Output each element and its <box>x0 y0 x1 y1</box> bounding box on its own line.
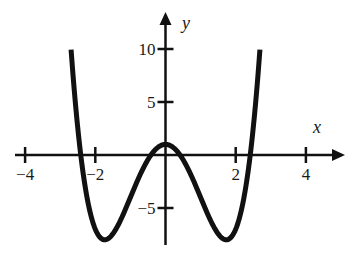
y-tick-label: −5 <box>137 199 155 218</box>
axes <box>15 12 345 245</box>
y-tick-label: 5 <box>147 93 156 112</box>
x-axis-arrow-icon <box>332 149 345 161</box>
x-tick-label: −4 <box>16 165 35 184</box>
y-axis-label: y <box>180 13 190 33</box>
x-axis-label: x <box>312 117 321 137</box>
ticks: −4−224105−5 <box>16 40 311 218</box>
x-tick-label: 2 <box>231 165 240 184</box>
function-graph: −4−224105−5 x y <box>0 0 347 256</box>
y-axis-arrow-icon <box>160 12 172 25</box>
x-tick-label: −2 <box>86 165 104 184</box>
y-tick-label: 10 <box>139 40 156 59</box>
x-tick-label: 4 <box>302 165 311 184</box>
